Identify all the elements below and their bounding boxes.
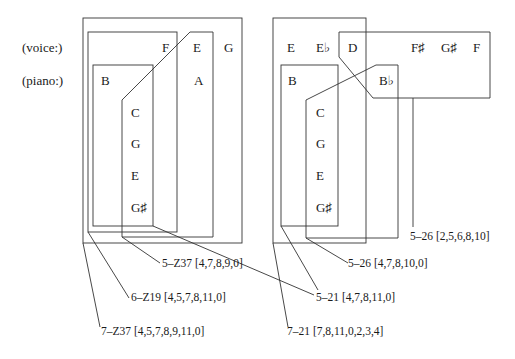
note-right-voice-Gsharp: G♯ <box>441 40 457 55</box>
note-right-voice-E: E <box>287 40 295 55</box>
set-label-7-21: 7–21 [7,8,11,0,2,3,4] <box>287 324 383 339</box>
set-label-7-Z37: 7–Z37 [4,5,7,8,9,11,0] <box>101 324 204 339</box>
note-left-col-C: C <box>131 105 140 120</box>
leader-6-Z19 <box>88 232 129 298</box>
set-diagram-lines <box>0 0 515 359</box>
leader-5-26b <box>306 238 348 263</box>
note-left-piano-A: A <box>194 73 203 88</box>
note-right-col-E: E <box>316 168 324 183</box>
note-right-voice-Fsharp: F♯ <box>411 40 425 55</box>
note-right-piano-Bflat: B♭ <box>379 73 394 88</box>
note-left-piano-B: B <box>101 73 110 88</box>
voice-row-label: (voice:) <box>22 40 62 55</box>
note-right-col-G: G <box>316 136 325 151</box>
leader-5-21-right <box>281 226 318 290</box>
set-label-5-21: 5–21 [4,7,8,11,0] <box>316 290 395 305</box>
note-right-piano-B: B <box>288 73 297 88</box>
note-left-col-E: E <box>131 168 139 183</box>
note-left-voice-F: F <box>162 40 169 55</box>
set-label-6-Z19: 6–Z19 [4,5,7,8,11,0] <box>131 290 226 305</box>
note-left-voice-E: E <box>193 40 201 55</box>
note-right-voice-D: D <box>348 40 357 55</box>
leader-7-Z37 <box>83 243 100 327</box>
set-label-5-26-piano: 5–26 [4,7,8,10,0] <box>348 256 428 271</box>
note-right-voice-F: F <box>473 40 480 55</box>
piano-row-label: (piano:) <box>22 73 63 88</box>
note-left-voice-G: G <box>224 40 233 55</box>
note-left-col-Gsharp: G♯ <box>131 200 147 215</box>
set-label-5-26-voice: 5–26 [2,5,6,8,10] <box>410 229 490 244</box>
note-right-voice-Eflat: E♭ <box>316 40 330 55</box>
note-right-col-Gsharp: G♯ <box>316 200 332 215</box>
leader-7-21 <box>273 243 288 327</box>
leader-5-Z37 <box>122 237 160 263</box>
note-left-col-G: G <box>131 136 140 151</box>
note-right-col-C: C <box>316 105 325 120</box>
set-label-5-Z37: 5–Z37 [4,7,8,9,0] <box>162 256 243 271</box>
